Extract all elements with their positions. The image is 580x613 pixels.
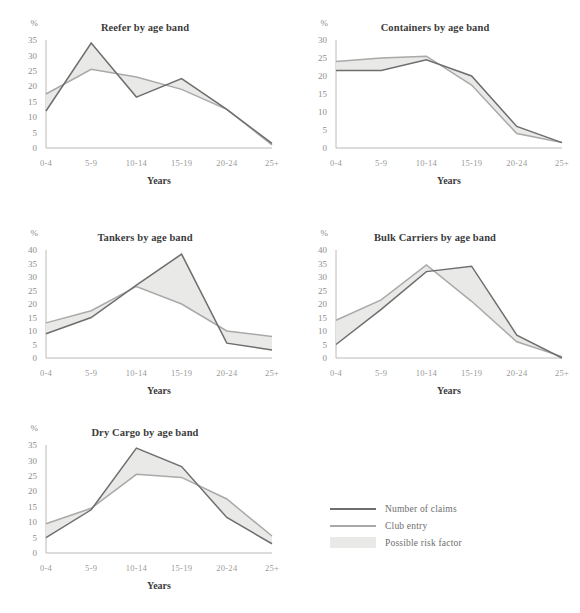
x-axis-tick-label: 25+ <box>555 368 569 378</box>
x-axis-tick-label: 25+ <box>555 158 569 168</box>
y-axis-tick-label: 10 <box>28 326 38 336</box>
y-axis-tick-label: 15 <box>28 313 38 323</box>
y-axis-tick-label: 25 <box>318 53 328 63</box>
y-axis-tick-label: 15 <box>28 97 38 107</box>
chart-panel-dry-cargo: Dry Cargo by age band %051015202530350-4… <box>0 405 290 605</box>
y-axis-tick-label: 10 <box>28 112 38 122</box>
x-axis-tick-label: 20-24 <box>506 368 528 378</box>
chart-plot-area: %051015202530350-45-910-1415-1920-2425+Y… <box>0 405 290 605</box>
y-axis-tick-label: 15 <box>28 502 38 512</box>
y-axis-tick-label: 30 <box>28 272 38 282</box>
y-axis-tick-label: 0 <box>33 548 38 558</box>
y-axis-unit-label: % <box>31 18 39 28</box>
chart-plot-area: %05101520253035400-45-910-1415-1920-2425… <box>0 210 290 410</box>
series-line-club-entry <box>46 69 272 145</box>
x-axis-tick-label: 15-19 <box>171 158 192 168</box>
legend-item-number-of-claims: Number of claims <box>330 500 560 517</box>
x-axis-tick-label: 20-24 <box>216 368 238 378</box>
chart-axes <box>46 40 272 148</box>
y-axis-tick-label: 20 <box>318 299 328 309</box>
y-axis-tick-label: 0 <box>33 143 38 153</box>
y-axis-tick-label: 40 <box>318 245 328 255</box>
legend-label: Club entry <box>385 521 427 531</box>
y-axis-tick-label: 20 <box>28 486 38 496</box>
risk-factor-area <box>336 56 562 142</box>
legend-line-swatch-claims <box>330 503 376 515</box>
x-axis-tick-label: 5-9 <box>85 368 97 378</box>
y-axis-tick-label: 25 <box>318 286 328 296</box>
y-axis-tick-label: 30 <box>28 51 38 61</box>
chart-plot-area: %05101520253035400-45-910-1415-1920-2425… <box>290 210 580 410</box>
legend-label: Possible risk factor <box>385 538 462 548</box>
y-axis-tick-label: 35 <box>28 35 38 45</box>
y-axis-tick-label: 5 <box>323 340 328 350</box>
legend-label: Number of claims <box>385 504 457 514</box>
y-axis-tick-label: 35 <box>28 259 38 269</box>
y-axis-tick-label: 35 <box>318 259 328 269</box>
x-axis-tick-label: 5-9 <box>85 563 97 573</box>
y-axis-unit-label: % <box>31 228 39 238</box>
y-axis-tick-label: 10 <box>318 107 328 117</box>
legend-item-possible-risk-factor: Possible risk factor <box>330 534 560 551</box>
x-axis-tick-label: 10-14 <box>126 368 148 378</box>
x-axis-tick-label: 15-19 <box>171 368 192 378</box>
y-axis-tick-label: 15 <box>318 313 328 323</box>
x-axis-tick-label: 0-4 <box>40 563 53 573</box>
series-line-club-entry <box>46 474 272 536</box>
x-axis-tick-label: 20-24 <box>216 158 238 168</box>
x-axis-tick-label: 5-9 <box>375 368 387 378</box>
x-axis-tick-label: 10-14 <box>416 158 438 168</box>
risk-factor-area <box>46 448 272 544</box>
x-axis-title: Years <box>437 175 461 186</box>
x-axis-title: Years <box>437 385 461 396</box>
chart-panel-containers: Containers by age band %0510152025300-45… <box>290 0 580 200</box>
risk-factor-area <box>336 265 562 358</box>
x-axis-tick-label: 20-24 <box>506 158 528 168</box>
chart-panel-tankers: Tankers by age band %05101520253035400-4… <box>0 210 290 410</box>
legend-area-swatch-risk <box>330 537 376 548</box>
y-axis-tick-label: 20 <box>28 81 38 91</box>
y-axis-tick-label: 0 <box>323 143 328 153</box>
y-axis-tick-label: 35 <box>28 440 38 450</box>
x-axis-tick-label: 10-14 <box>126 563 148 573</box>
x-axis-title: Years <box>147 580 171 591</box>
x-axis-tick-label: 0-4 <box>40 368 53 378</box>
y-axis-tick-label: 0 <box>323 353 328 363</box>
x-axis-tick-label: 10-14 <box>126 158 148 168</box>
chart-plot-area: %051015202530350-45-910-1415-1920-2425+Y… <box>0 0 290 200</box>
x-axis-title: Years <box>147 175 171 186</box>
x-axis-tick-label: 5-9 <box>375 158 387 168</box>
y-axis-tick-label: 0 <box>33 353 38 363</box>
y-axis-unit-label: % <box>321 18 329 28</box>
y-axis-tick-label: 10 <box>28 517 38 527</box>
x-axis-tick-label: 25+ <box>265 563 279 573</box>
y-axis-tick-label: 20 <box>318 71 328 81</box>
chart-panel-bulk-carriers: Bulk Carriers by age band %0510152025303… <box>290 210 580 410</box>
x-axis-tick-label: 10-14 <box>416 368 438 378</box>
y-axis-tick-label: 30 <box>318 272 328 282</box>
x-axis-tick-label: 0-4 <box>330 368 343 378</box>
legend-item-club-entry: Club entry <box>330 517 560 534</box>
risk-factor-area <box>46 254 272 350</box>
y-axis-tick-label: 25 <box>28 471 38 481</box>
x-axis-tick-label: 15-19 <box>461 368 482 378</box>
y-axis-tick-label: 30 <box>318 35 328 45</box>
series-line-number-of-claims <box>46 43 272 143</box>
x-axis-tick-label: 25+ <box>265 158 279 168</box>
y-axis-tick-label: 40 <box>28 245 38 255</box>
y-axis-tick-label: 5 <box>33 533 38 543</box>
y-axis-tick-label: 25 <box>28 286 38 296</box>
x-axis-tick-label: 5-9 <box>85 158 97 168</box>
y-axis-tick-label: 5 <box>33 340 38 350</box>
chart-plot-area: %0510152025300-45-910-1415-1920-2425+Yea… <box>290 0 580 200</box>
y-axis-tick-label: 15 <box>318 89 328 99</box>
y-axis-tick-label: 10 <box>318 326 328 336</box>
chart-legend: Number of claims Club entry Possible ris… <box>330 500 560 551</box>
y-axis-tick-label: 30 <box>28 456 38 466</box>
x-axis-tick-label: 25+ <box>265 368 279 378</box>
y-axis-tick-label: 25 <box>28 66 38 76</box>
y-axis-tick-label: 5 <box>33 128 38 138</box>
y-axis-tick-label: 20 <box>28 299 38 309</box>
y-axis-unit-label: % <box>321 228 329 238</box>
x-axis-tick-label: 15-19 <box>171 563 192 573</box>
